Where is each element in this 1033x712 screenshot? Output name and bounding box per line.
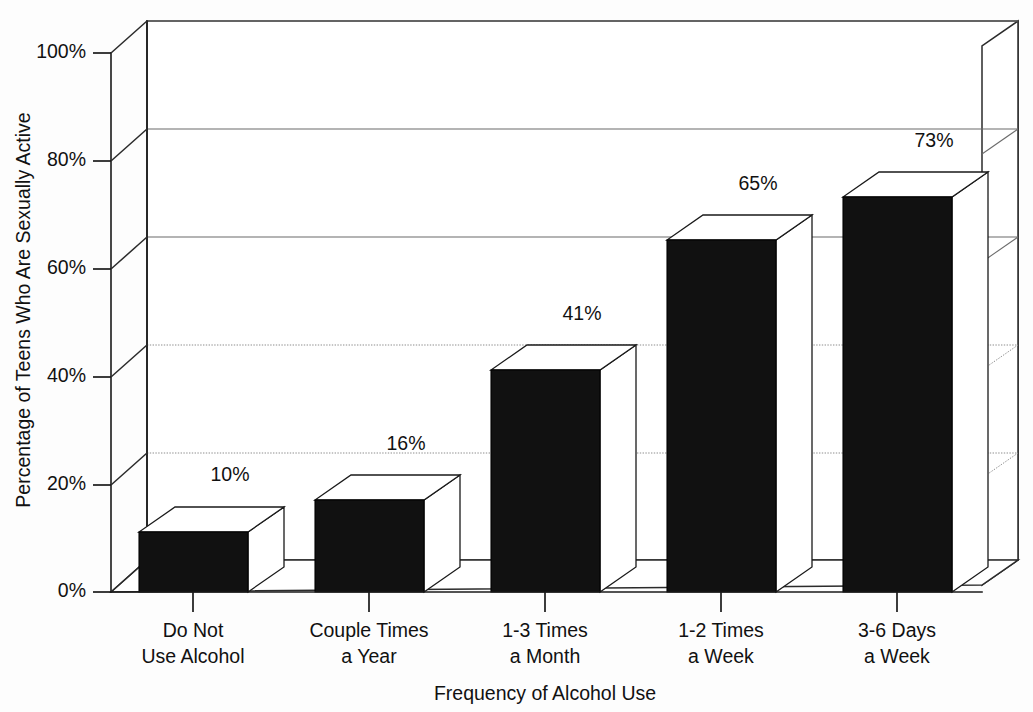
category-label-2-line2: a Month <box>510 645 580 667</box>
bar-front-4 <box>843 197 952 592</box>
depth-line-80 <box>111 129 147 161</box>
depth-line-40 <box>111 345 147 377</box>
category-label-1-line1: Couple Times <box>309 619 428 641</box>
depth-line-20 <box>111 453 147 485</box>
depth-line-60 <box>111 237 147 269</box>
category-label-4-line2: a Week <box>864 645 930 667</box>
y-tick-label-0: 0% <box>58 579 86 601</box>
y-tick-label-20: 20% <box>47 472 86 494</box>
bar-side-3 <box>776 215 812 592</box>
bar-group-2[interactable] <box>491 345 636 592</box>
category-label-3-line1: 1-2 Times <box>678 619 764 641</box>
data-label-2: 41% <box>562 302 601 324</box>
y-tick-label-40: 40% <box>47 364 86 386</box>
y-tick-labels: 100% 80% 60% 40% 20% 0% <box>36 40 86 601</box>
y-axis-title: Percentage of Teens Who Are Sexually Act… <box>12 112 34 507</box>
x-category-labels: Do Not Use Alcohol Couple Times a Year 1… <box>142 619 937 667</box>
data-label-1: 16% <box>386 432 425 454</box>
data-label-4: 73% <box>914 129 953 151</box>
bar-group-4[interactable] <box>843 172 988 592</box>
y-tick-label-60: 60% <box>47 256 86 278</box>
depth-line-100 <box>111 21 147 53</box>
bar-chart-3d: 100% 80% 60% 40% 20% 0% Percentage of Te… <box>0 0 1033 712</box>
bar-front-3 <box>667 240 776 592</box>
category-label-0-line2: Use Alcohol <box>142 645 245 667</box>
bar-front-1 <box>315 500 424 592</box>
chart-container: 100% 80% 60% 40% 20% 0% Percentage of Te… <box>0 0 1033 712</box>
category-label-1-line2: a Year <box>341 645 397 667</box>
x-axis-title: Frequency of Alcohol Use <box>434 682 656 704</box>
bar-group-0[interactable] <box>139 507 284 592</box>
y-tick-label-80: 80% <box>47 148 86 170</box>
bar-front-2 <box>491 370 600 592</box>
bar-group-1[interactable] <box>315 475 460 592</box>
bar-front-0 <box>139 532 248 592</box>
data-label-0: 10% <box>210 463 249 485</box>
x-axis-group <box>111 592 982 612</box>
category-label-4-line1: 3-6 Days <box>858 619 936 641</box>
y-axis-group <box>93 21 147 592</box>
data-label-3: 65% <box>738 172 777 194</box>
category-label-2-line1: 1-3 Times <box>502 619 588 641</box>
bar-side-4 <box>952 172 988 592</box>
category-label-3-line2: a Week <box>688 645 754 667</box>
bar-group-3[interactable] <box>667 215 812 592</box>
y-tick-label-100: 100% <box>36 40 86 62</box>
bar-side-2 <box>600 345 636 592</box>
category-label-0-line1: Do Not <box>163 619 224 641</box>
